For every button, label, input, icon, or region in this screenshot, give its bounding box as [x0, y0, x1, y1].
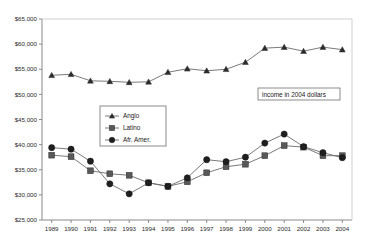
- data-point-circle-marker: [300, 144, 306, 150]
- data-point-circle-marker: [281, 131, 287, 137]
- x-axis-tick-label: 1995: [161, 225, 175, 232]
- y-axis-tick-label: $40,000: [15, 141, 38, 148]
- series-line: [52, 47, 343, 82]
- x-axis-tick-label: 1990: [64, 225, 78, 232]
- legend-label-latino: Latino: [123, 124, 141, 131]
- data-point-circle-marker: [184, 175, 190, 181]
- x-axis-tick-label: 1993: [122, 225, 136, 232]
- x-axis-tick-label: 1999: [239, 225, 253, 232]
- y-axis-tick-label: $35,000: [15, 166, 38, 173]
- series-afr-amer: [49, 131, 346, 197]
- data-point-circle-marker: [145, 180, 151, 186]
- x-axis-tick-label: 2000: [258, 225, 272, 232]
- y-axis-tick-label: $25,000: [15, 216, 38, 223]
- y-axis-tick-label: $55,000: [15, 65, 38, 72]
- y-axis-tick-label: $30,000: [15, 191, 38, 198]
- data-point-circle-marker: [204, 157, 210, 163]
- data-point-circle-marker: [223, 159, 229, 165]
- x-axis-tick-label: 1991: [84, 225, 98, 232]
- data-point-circle-marker: [165, 183, 171, 189]
- data-point-circle-marker: [87, 158, 93, 164]
- x-axis-tick-label: 2003: [316, 225, 330, 232]
- y-axis-tick-label: $45,000: [15, 116, 38, 123]
- y-axis: $25,000$30,000$35,000$40,000$45,000$50,0…: [15, 15, 42, 223]
- data-point-square-marker: [262, 153, 268, 159]
- series-layer: [49, 44, 346, 197]
- series-line: [52, 134, 343, 194]
- data-point-square-marker: [49, 152, 55, 158]
- x-axis-tick-label: 1989: [45, 225, 59, 232]
- legend-label-anglo: Anglo: [123, 112, 140, 120]
- data-point-circle-marker: [68, 146, 74, 152]
- data-point-circle-marker: [107, 181, 113, 187]
- x-axis: 1989199019911992199319941995199619971998…: [45, 220, 350, 232]
- data-point-square-marker: [68, 154, 74, 160]
- y-axis-tick-label: $50,000: [15, 91, 38, 98]
- data-point-square-marker: [281, 143, 287, 149]
- data-point-square-marker: [107, 171, 113, 177]
- data-point-circle-marker: [49, 145, 55, 151]
- data-point-circle-marker: [126, 191, 132, 197]
- data-point-square-marker: [243, 161, 249, 167]
- legend-label-afr-amer: Afr. Amer.: [123, 136, 151, 143]
- x-axis-tick-label: 1996: [180, 225, 194, 232]
- x-axis-tick-label: 1992: [103, 225, 117, 232]
- data-point-square-marker: [88, 168, 94, 174]
- income-trend-line-chart: $25,000$30,000$35,000$40,000$45,000$50,0…: [0, 0, 368, 250]
- data-point-triangle-marker: [243, 59, 249, 64]
- data-point-square-marker: [126, 172, 132, 178]
- series-line: [52, 146, 343, 187]
- plot-frame: [42, 19, 352, 220]
- x-axis-tick-label: 2001: [277, 225, 291, 232]
- series-anglo: [49, 44, 345, 84]
- x-axis-tick-label: 1998: [219, 225, 233, 232]
- data-point-triangle-marker: [320, 44, 326, 49]
- data-point-triangle-marker: [184, 66, 190, 71]
- annotation-label: income in 2004 dollars: [262, 91, 326, 98]
- series-latino: [49, 143, 345, 190]
- x-axis-tick-label: 1997: [200, 225, 214, 232]
- data-point-circle-marker: [242, 154, 248, 160]
- y-axis-tick-label: $60,000: [15, 40, 38, 47]
- data-point-circle-marker: [262, 140, 268, 146]
- y-axis-tick-label: $65,000: [15, 15, 38, 22]
- chart-page: $25,000$30,000$35,000$40,000$45,000$50,0…: [0, 0, 368, 250]
- annotation-box: income in 2004 dollars: [258, 88, 340, 100]
- data-point-circle-marker: [339, 155, 345, 161]
- data-point-square-marker: [204, 170, 210, 176]
- data-point-circle-marker: [109, 137, 115, 143]
- chart-legend: AngloLatinoAfr. Amer.: [100, 106, 166, 146]
- data-point-circle-marker: [320, 150, 326, 156]
- x-axis-tick-label: 1994: [142, 225, 156, 232]
- x-axis-tick-label: 2004: [335, 225, 349, 232]
- x-axis-tick-label: 2002: [297, 225, 311, 232]
- data-point-square-marker: [109, 125, 114, 130]
